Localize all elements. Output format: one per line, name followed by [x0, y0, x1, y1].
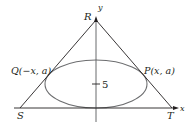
vertex-R-label: R: [83, 11, 92, 22]
point-P-label: P(x, a): [143, 65, 175, 76]
triangle-ellipse-diagram: 5 y x R S T Q(−x, a) P(x, a): [0, 0, 191, 128]
vertex-T-label: T: [167, 110, 175, 121]
y-axis-label: y: [97, 3, 103, 12]
side-RT: [96, 20, 172, 108]
side-RS: [20, 20, 96, 108]
point-Q-label: Q(−x, a): [11, 65, 52, 76]
x-axis-arrow-icon: [173, 106, 179, 110]
vertex-S-label: S: [17, 110, 24, 121]
x-axis-label: x: [180, 104, 185, 113]
tick-label-5: 5: [102, 79, 108, 90]
